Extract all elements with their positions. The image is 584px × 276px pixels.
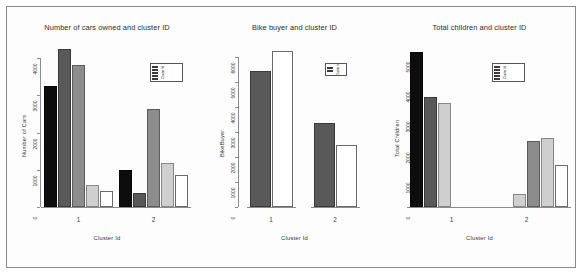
bar (147, 109, 160, 207)
chart-title-cars: Number of cars owned and cluster ID (7, 23, 207, 32)
legend-swatches (151, 65, 159, 81)
x-tick-label: 1 (67, 216, 91, 223)
y-axis-label-bike: BikeBuyer (219, 130, 225, 157)
bar (58, 49, 71, 207)
legend-title: Cluster Id (504, 66, 507, 79)
legend-swatch (494, 66, 500, 68)
bar (119, 170, 132, 207)
y-tick-label: 3000 (32, 94, 38, 118)
y-axis-label-cars: Number of Cars (21, 115, 27, 157)
x-tick-label: 2 (142, 216, 166, 223)
x-axis-line (311, 207, 360, 208)
bar (410, 52, 423, 207)
x-axis-label-children: Cluster Id (382, 235, 577, 241)
bar (44, 86, 57, 207)
y-tick-label: 0 (230, 206, 236, 230)
legend-swatch (494, 78, 500, 80)
y-axis-label-children: Total Children (394, 120, 400, 157)
chart-panel-children: Total children and cluster ID Total Chil… (382, 7, 577, 269)
bar (175, 175, 188, 207)
x-axis-line (41, 207, 116, 208)
legend-swatch (152, 66, 158, 68)
legend-swatch (327, 67, 333, 69)
x-tick-label: 1 (259, 216, 283, 223)
legend-cars[interactable]: Cluster Id (150, 63, 183, 82)
x-tick-label: 1 (440, 216, 464, 223)
bar (541, 138, 554, 207)
bar (527, 141, 540, 207)
x-axis-label-bike: Cluster Id (207, 235, 382, 241)
legend-swatch (152, 72, 158, 74)
x-tick-label: 2 (515, 216, 539, 223)
bar (272, 51, 293, 207)
bar (100, 191, 113, 207)
chart-panel-bike: Bike buyer and cluster ID BikeBuyer 0100… (207, 7, 382, 269)
bar (250, 71, 271, 207)
y-axis-line (40, 58, 41, 207)
bar (133, 193, 146, 207)
x-axis-line (116, 207, 191, 208)
y-tick-label: 3000 (230, 131, 236, 155)
legend-swatch (494, 72, 500, 74)
legend-swatch (152, 75, 158, 77)
legend-title-wrap: Cluster Id (501, 64, 510, 81)
bar (438, 103, 451, 207)
plot-area-bike: 010002000300040005000600012 (239, 47, 367, 207)
bar (336, 145, 357, 208)
y-tick-label: 5000 (230, 81, 236, 105)
x-axis-line (482, 207, 571, 208)
legend-swatch (327, 70, 333, 72)
x-axis-line (247, 207, 296, 208)
legend-swatch (494, 69, 500, 71)
legend-title: Cluster Id (337, 63, 340, 76)
plot-area-children: 01000200030004000500012 (414, 47, 564, 207)
bar (424, 97, 437, 207)
legend-swatch (494, 75, 500, 77)
chart-title-bike: Bike buyer and cluster ID (207, 23, 382, 32)
bar (86, 185, 99, 207)
bar (161, 163, 174, 207)
y-tick-label: 4000 (230, 106, 236, 130)
legend-swatches (326, 66, 334, 73)
y-tick-label: 4000 (32, 57, 38, 81)
y-tick-label: 0 (32, 206, 38, 230)
legend-bike[interactable]: Cluster Id (325, 63, 347, 76)
bar (72, 65, 85, 207)
legend-title-wrap: Cluster Id (334, 64, 343, 75)
legend-children[interactable]: Cluster Id (492, 63, 525, 82)
y-tick-label: 0 (405, 206, 411, 230)
bar (513, 194, 526, 207)
legend-title: Cluster Id (162, 66, 165, 79)
bar (555, 165, 568, 207)
y-tick-label: 2000 (230, 156, 236, 180)
legend-swatches (493, 65, 501, 81)
chart-panel-cars: Number of cars owned and cluster ID Numb… (7, 7, 207, 269)
y-tick-label: 1000 (32, 169, 38, 193)
y-tick-label: 1000 (230, 181, 236, 205)
legend-title-wrap: Cluster Id (159, 64, 168, 81)
chart-title-children: Total children and cluster ID (382, 23, 577, 32)
bar (314, 123, 335, 207)
y-axis-line (238, 57, 239, 207)
figure-frame: Number of cars owned and cluster ID Numb… (6, 6, 576, 268)
x-axis-label-cars: Cluster Id (7, 235, 207, 241)
x-tick-label: 2 (323, 216, 347, 223)
y-tick-label: 2000 (32, 132, 38, 156)
legend-swatch (152, 78, 158, 80)
legend-swatch (152, 69, 158, 71)
y-tick-label: 6000 (230, 56, 236, 80)
